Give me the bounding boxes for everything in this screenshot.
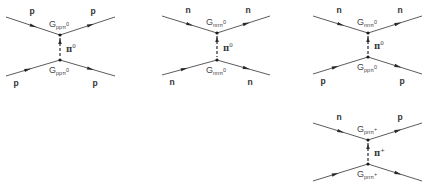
propagator-arrow-icon [366, 144, 370, 149]
arrow-icon [243, 21, 251, 26]
pion-charge: + [380, 147, 385, 153]
arrow-icon [394, 171, 402, 176]
coupling-subscript: nnπ [213, 70, 223, 76]
pion-charge: 0 [229, 42, 233, 48]
arrow-icon [332, 172, 340, 177]
feynman-diagram-np-scattering-pi0: nnppGnnπ0Gppπ0π0 [313, 5, 422, 86]
particle-label: p [397, 112, 402, 122]
vertex-bottom [366, 162, 369, 165]
coupling-subscript: nnπ [364, 22, 374, 28]
particle-label: p [13, 78, 18, 88]
vertex-bottom [215, 58, 218, 61]
pion-label: π0 [374, 40, 384, 51]
coupling-base: G [357, 17, 364, 27]
propagator-arrow-icon [366, 37, 370, 42]
pion-label: π0 [66, 43, 76, 54]
particle-label: p [399, 76, 404, 86]
propagator-arrow-icon [215, 37, 219, 42]
propagator-arrow-icon [58, 39, 62, 44]
pion-label: π+ [374, 147, 385, 158]
arrow-icon [394, 128, 402, 133]
feynman-diagrams-canvas: ppppGppπ0Gppπ0π0nnnnGnnπ0Gnnπ0π0nnppGnnπ… [0, 0, 432, 186]
coupling-constant-label: Gppπ0 [357, 62, 377, 73]
coupling-subscript-charge: 0 [374, 19, 377, 25]
pion-charge: 0 [72, 43, 76, 49]
coupling-base: G [357, 62, 364, 72]
arrow-icon [243, 66, 251, 71]
coupling-base: G [49, 19, 56, 29]
coupling-subscript: ppπ [56, 70, 66, 76]
arrow-icon [337, 22, 345, 27]
coupling-constant-label: Gpnπ+ [357, 169, 377, 180]
pion-label: π0 [223, 42, 233, 53]
particle-label: n [185, 5, 190, 15]
arrow-icon [394, 21, 402, 26]
particle-label: n [397, 5, 402, 15]
coupling-constant-label: Gnnπ0 [357, 17, 377, 28]
arrow-icon [332, 65, 340, 70]
coupling-base: G [357, 124, 364, 134]
particle-label: n [336, 5, 341, 15]
feynman-diagram-pp-scattering-pi0: ppppGppπ0Gppπ0π0 [6, 6, 115, 88]
coupling-subscript-charge: 0 [223, 67, 226, 73]
particle-label: n [247, 77, 252, 87]
particle-label: p [320, 183, 325, 186]
particle-label: n [336, 112, 341, 122]
coupling-constant-label: Gppπ0 [49, 65, 69, 76]
coupling-subscript: ppπ [56, 24, 66, 30]
coupling-base: G [49, 65, 56, 75]
arrow-icon [24, 67, 32, 72]
particle-label: p [320, 76, 325, 86]
particle-label: p [90, 6, 95, 16]
particle-label: p [29, 6, 34, 16]
coupling-constant-label: Gpnπ+ [357, 124, 377, 135]
vertex-bottom [366, 55, 369, 58]
coupling-subscript-charge: 0 [66, 21, 69, 27]
arrow-icon [186, 22, 194, 27]
coupling-subscript-charge: 0 [374, 64, 377, 70]
arrow-icon [30, 23, 38, 28]
coupling-constant-label: Gnnπ0 [206, 65, 226, 76]
coupling-subscript: nnπ [213, 22, 223, 28]
feynman-diagram-np-charge-exchange-pi-plus: nppnGpnπ+Gpnπ+π+ [313, 112, 422, 186]
arrow-icon [181, 66, 189, 71]
vertex-top [366, 138, 369, 141]
particle-label: p [92, 78, 97, 88]
coupling-subscript: ppπ [364, 67, 374, 73]
arrow-icon [394, 64, 402, 69]
pion-charge: 0 [380, 40, 384, 46]
coupling-subscript: pnπ [364, 174, 374, 180]
arrow-icon [87, 22, 95, 27]
particle-label: n [169, 77, 174, 87]
arrow-icon [87, 66, 95, 71]
particle-label: n [245, 5, 250, 15]
vertex-bottom [58, 58, 61, 61]
particle-label: n [399, 183, 404, 186]
coupling-base: G [206, 17, 213, 27]
coupling-constant-label: Gnnπ0 [206, 17, 226, 28]
coupling-subscript-charge: + [374, 171, 377, 177]
coupling-subscript-charge: 0 [66, 67, 69, 73]
feynman-diagram-nn-scattering-pi0: nnnnGnnπ0Gnnπ0π0 [162, 5, 270, 87]
coupling-subscript-charge: + [374, 126, 377, 132]
vertex-top [366, 31, 369, 34]
coupling-base: G [357, 169, 364, 179]
vertex-top [58, 33, 61, 36]
coupling-subscript-charge: 0 [223, 19, 226, 25]
coupling-subscript: pnπ [364, 129, 374, 135]
arrow-icon [337, 129, 345, 134]
coupling-constant-label: Gppπ0 [49, 19, 69, 30]
vertex-top [215, 31, 218, 34]
coupling-base: G [206, 65, 213, 75]
